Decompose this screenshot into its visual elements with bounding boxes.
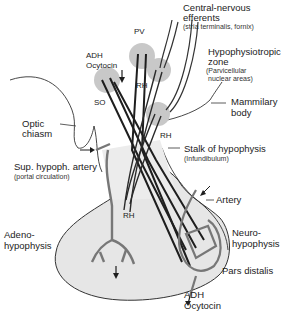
label-stria-terminalis: (stria terminalis, fornix) (183, 23, 254, 31)
label-chiasm: chiasm (22, 129, 52, 139)
label-zone: zone (208, 57, 229, 67)
hypothalamus-pituitary-diagram: Central-nervous efferents (stria termina… (0, 0, 292, 315)
label-so: SO (94, 98, 106, 107)
label-mammilary: Mammilary (231, 97, 277, 107)
label-portal-circulation: (portal circulation) (14, 173, 70, 181)
label-neuro-hypophysis: hypophysis (232, 239, 280, 249)
label-body: body (231, 108, 252, 118)
label-efferents: efferents (183, 13, 220, 23)
parvicellular-nucleus-1 (147, 58, 171, 82)
label-stalk: Stalk of hypophysis (184, 144, 266, 154)
label-rh-upper: RH (136, 81, 148, 90)
label-rh-middle: RH (160, 131, 172, 140)
label-ocytocin-top: Ocytocin (86, 61, 117, 70)
label-artery: Artery (216, 195, 241, 205)
label-neuro: Neuro- (232, 228, 261, 238)
label-adeno: Adeno- (4, 230, 35, 240)
label-pars-distalis: Pars distalis (222, 266, 273, 276)
label-adeno-hypophysis: hypophysis (4, 241, 52, 251)
label-rh-lower: RH (123, 211, 135, 220)
label-nuclear-areas: nuclear areas) (208, 75, 253, 83)
label-adh-bottom: ADH (184, 290, 204, 300)
label-infundibulum: (Infundibulum) (184, 155, 229, 163)
label-adh-top: ADH (86, 51, 103, 60)
label-ocytocin-bottom: Ocytocin (184, 301, 221, 311)
label-pv: PV (134, 27, 145, 36)
label-sup-hypoph-artery: Sup. hypoph. artery (14, 162, 97, 172)
label-parvicellular: (Parvicellular (206, 67, 246, 75)
